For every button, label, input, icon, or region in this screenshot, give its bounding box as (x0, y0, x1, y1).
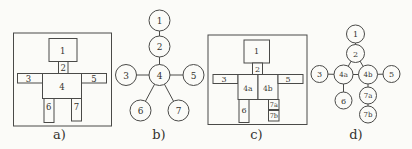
panel-d-node-1-label: 1 (353, 30, 358, 39)
panel-c-box-3-label: 3 (221, 75, 226, 84)
panel-a-box-4-label: 4 (59, 82, 64, 92)
panel-d-caption: d) (349, 127, 362, 142)
panel-a: 1234567a) (14, 33, 112, 142)
panel-b-caption: b) (152, 127, 165, 142)
panel-b: 1234567b) (116, 10, 205, 142)
figure-diagram: 1234567a)1234567b)1234a4b567a7bc)1234a4b… (0, 0, 412, 149)
panel-b-node-1-label: 1 (157, 16, 163, 26)
panel-a-box-1-label: 1 (60, 46, 65, 56)
panel-b-node-5-label: 5 (191, 71, 197, 81)
panel-a-box-7-label: 7 (74, 102, 79, 112)
panel-c-box-4b-label: 4b (263, 84, 273, 93)
panel-b-node-3-label: 3 (123, 71, 129, 81)
panel-d-node-5-label: 5 (389, 70, 394, 79)
panel-d-node-7a-label: 7a (364, 92, 373, 100)
panel-b-node-4-label: 4 (157, 71, 163, 81)
panel-a-box-5-label: 5 (91, 74, 96, 84)
panel-d-node-3-label: 3 (317, 70, 322, 79)
scanned-figure-page: 1234567a)1234567b)1234a4b567a7bc)1234a4b… (0, 0, 412, 149)
panel-d-node-7b-label: 7b (364, 111, 373, 119)
panel-c-box-6-label: 6 (241, 106, 246, 115)
panel-d-node-4a-label: 4a (339, 71, 348, 79)
panel-d-node-4b-label: 4b (364, 71, 373, 79)
panel-c-box-7a-label: 7a (270, 101, 278, 109)
panel-c: 1234a4b567a7bc) (208, 35, 307, 142)
panel-d-node-6-label: 6 (341, 97, 346, 106)
panel-a-box-2-label: 2 (61, 63, 66, 73)
panel-c-box-7b-label: 7b (270, 112, 278, 120)
panel-a-caption: a) (53, 127, 66, 142)
panel-c-box-5-label: 5 (285, 75, 290, 84)
panel-d-node-2-label: 2 (353, 50, 358, 59)
panel-c-box-4a-label: 4a (243, 84, 253, 93)
panel-c-box-1-label: 1 (254, 47, 259, 56)
panel-a-box-6-label: 6 (46, 102, 51, 112)
panel-d: 1234a4b567a7bd) (311, 25, 400, 142)
panel-b-node-2-label: 2 (157, 42, 163, 52)
panel-c-caption: c) (250, 127, 262, 142)
panel-a-box-3-label: 3 (26, 74, 31, 84)
panel-b-node-7-label: 7 (176, 106, 182, 116)
panel-b-node-6-label: 6 (138, 106, 144, 116)
panel-c-box-2-label: 2 (255, 65, 260, 74)
